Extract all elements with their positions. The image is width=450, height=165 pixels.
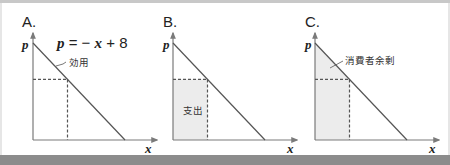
y-axis-label-c: p [304,37,312,52]
equation-rest: + 8 [102,34,127,51]
y-axis-label-a: p [21,37,29,52]
x-axis-label-a: x [144,141,152,155]
panel-c: C. p x 消費者余剰 [304,13,439,155]
panel-b: B. p x 支出 [162,13,297,155]
frame-bottom-bar [0,155,450,165]
x-axis-label-c: x [428,141,436,155]
annotation-consumer-surplus: 消費者余剰 [345,55,395,66]
annotation-expenditure: 支出 [183,105,203,116]
x-axis-label-b: x [286,141,294,155]
annotation-utility: 効用 [69,57,89,68]
panel-label-b: B. [163,13,177,30]
panel-a: A. p x p = − x + 8 効用 [21,13,157,155]
panel-label-a: A. [22,13,36,30]
demand-figure: A. p x p = − x + 8 効用 B. p x 支出 C. p x 消… [0,0,450,155]
annotation-leader-a [56,62,66,66]
panel-label-c: C. [305,13,320,30]
y-axis-label-b: p [162,37,170,52]
equation-lhs: p [55,35,65,51]
demand-equation: p = − x + 8 [55,34,127,51]
expenditure-area [315,79,350,140]
equation-equals-minus: = − [65,34,95,51]
